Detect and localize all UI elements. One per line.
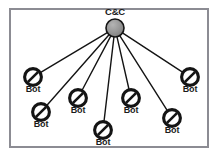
bot-node-3	[95, 122, 112, 139]
bot-node-label-4: Bot	[124, 105, 138, 115]
edge-cc-to-bot-0	[41, 32, 108, 72]
bot-node-label-3: Bot	[96, 137, 110, 147]
bot-node-label-5: Bot	[165, 125, 179, 135]
bot-node-1	[33, 104, 50, 121]
bot-node-2	[70, 90, 87, 107]
bot-node-label-6: Bot	[183, 84, 197, 94]
bot-node-label-2: Bot	[71, 105, 85, 115]
edge-cc-to-bot-3	[104, 36, 114, 121]
diagram-canvas	[0, 0, 218, 159]
edge-cc-to-bot-2	[82, 35, 111, 90]
bot-node-0	[25, 69, 42, 86]
bot-node-6	[182, 69, 199, 86]
server-circle-icon	[106, 19, 124, 37]
edge-cc-to-bot-4	[117, 36, 129, 89]
node-layer	[25, 19, 199, 138]
bot-node-4	[123, 90, 140, 107]
botnet-diagram-screenshot: C&CBotBotBotBotBotBotBot	[0, 0, 218, 159]
cc-node-label: C&C	[105, 7, 125, 17]
bot-node-label-0: Bot	[26, 84, 40, 94]
bot-node-label-1: Bot	[34, 119, 48, 129]
bot-node-5	[164, 110, 181, 127]
edge-layer	[41, 32, 183, 121]
